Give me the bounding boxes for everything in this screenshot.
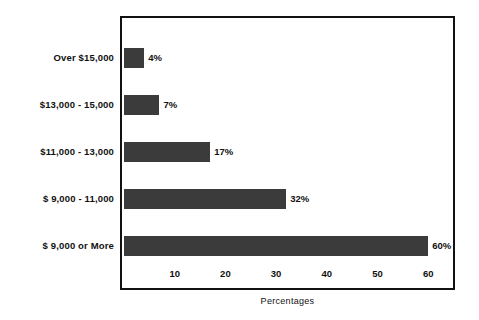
category-label-0: Over $15,000 xyxy=(0,53,114,63)
bar-segment[interactable] xyxy=(124,142,210,162)
x-tick-label: 60 xyxy=(413,268,443,279)
bar-chart: Over $15,000 $13,000 - 15,000 $11,000 - … xyxy=(0,0,479,320)
x-tick-label: 40 xyxy=(312,268,342,279)
category-label-3: $ 9,000 - 11,000 xyxy=(0,194,114,204)
bar-segment[interactable] xyxy=(124,95,159,115)
category-label-2: $11,000 - 13,000 xyxy=(0,147,114,157)
x-axis-tick-labels: 10 20 30 40 50 60 xyxy=(0,268,479,286)
bar-segment[interactable] xyxy=(124,236,428,256)
category-label-4: $ 9,000 or More xyxy=(0,241,114,251)
bar-segment[interactable] xyxy=(124,189,286,209)
x-tick-label: 10 xyxy=(160,268,190,279)
category-label-1: $13,000 - 15,000 xyxy=(0,100,114,110)
x-tick-label: 20 xyxy=(210,268,240,279)
x-tick-label: 30 xyxy=(261,268,291,279)
bar-segment[interactable] xyxy=(124,48,144,68)
x-axis-title: Percentages xyxy=(120,296,455,306)
category-axis-labels: Over $15,000 $13,000 - 15,000 $11,000 - … xyxy=(0,0,118,290)
x-tick-label: 50 xyxy=(363,268,393,279)
